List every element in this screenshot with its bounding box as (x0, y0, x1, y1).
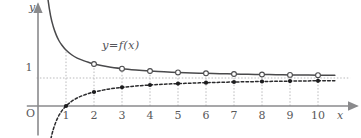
filled-marker-x1 (64, 104, 68, 108)
origin-label: O (26, 108, 35, 119)
x-tick-label-7: 7 (224, 110, 244, 121)
open-marker-x3 (120, 66, 125, 71)
open-marker-x7 (232, 72, 237, 77)
dashed-curve-markers (64, 79, 320, 108)
x-tick-label-5: 5 (168, 110, 188, 121)
filled-marker-x9 (288, 79, 292, 83)
open-marker-x8 (260, 72, 265, 77)
filled-marker-x2 (92, 90, 96, 94)
x-axis-label: x (337, 110, 343, 121)
graph-figure: y x O 1 y=f(x) 12345678910 (0, 0, 361, 138)
x-tick-label-2: 2 (84, 110, 104, 121)
solid-curve (46, 0, 335, 75)
open-marker-x6 (204, 71, 209, 76)
filled-marker-x3 (120, 85, 124, 89)
x-tick-label-1: 1 (56, 110, 76, 121)
function-label: y=f(x) (102, 40, 140, 52)
open-marker-x5 (176, 70, 181, 75)
x-tick-label-3: 3 (112, 110, 132, 121)
y-tick-label-1: 1 (24, 62, 34, 73)
x-tick-label-9: 9 (280, 110, 300, 121)
open-marker-x9 (288, 72, 293, 77)
filled-marker-x10 (316, 79, 320, 83)
open-marker-x4 (148, 69, 153, 74)
filled-marker-x6 (204, 81, 208, 85)
filled-marker-x5 (176, 82, 180, 86)
filled-marker-x4 (148, 83, 152, 87)
open-marker-x2 (92, 62, 97, 67)
open-marker-x10 (316, 73, 321, 78)
x-tick-label-8: 8 (252, 110, 272, 121)
x-tick-label-4: 4 (140, 110, 160, 121)
filled-marker-x8 (260, 79, 264, 83)
y-axis-label: y (29, 2, 35, 13)
x-tick-label-10: 10 (308, 110, 328, 121)
x-tick-label-6: 6 (196, 110, 216, 121)
filled-marker-x7 (232, 80, 236, 84)
